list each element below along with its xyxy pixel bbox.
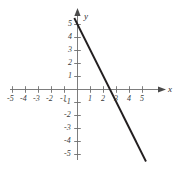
x-tick-label-5: 5 — [140, 95, 144, 103]
coordinate-plane-graph — [0, 0, 177, 174]
x-tick-label-2: 2 — [101, 95, 105, 103]
y-tick-label-1: 1 — [68, 72, 72, 80]
x-tick-label--2: -2 — [46, 95, 53, 103]
graph-screenshot: the answer. — [0, 0, 177, 174]
y-tick-label--3: -3 — [64, 124, 71, 132]
x-tick-label--3: -3 — [33, 95, 40, 103]
y-tick-label--4: -4 — [64, 137, 71, 145]
x-tick-label-4: 4 — [127, 95, 131, 103]
x-axis-arrow-icon — [158, 86, 166, 92]
y-tick-label-5: 5 — [68, 20, 72, 28]
y-axis-arrow-icon — [74, 8, 80, 16]
y-tick-label-3: 3 — [68, 46, 72, 54]
x-tick-label--4: -4 — [20, 95, 27, 103]
y-tick-label--1: -1 — [64, 98, 71, 106]
y-axis-label: y — [84, 12, 88, 21]
x-tick-label-3: 3 — [114, 95, 118, 103]
y-tick-label--5: -5 — [64, 150, 71, 158]
x-axis-label: x — [168, 85, 172, 94]
y-tick-label--2: -2 — [64, 111, 71, 119]
x-tick-label-1: 1 — [88, 95, 92, 103]
y-tick-label-4: 4 — [68, 33, 72, 41]
y-tick-label-2: 2 — [68, 59, 72, 67]
x-tick-label--5: -5 — [7, 95, 14, 103]
